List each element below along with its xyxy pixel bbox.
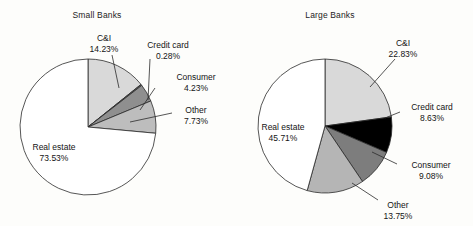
slice-label-name: C&I	[396, 38, 410, 48]
slice-label-large-credit-card: Credit card8.63%	[372, 102, 473, 123]
slice-label-name: Credit card	[411, 102, 453, 112]
slice-label-name: Real estate	[33, 142, 76, 152]
slice-label-value: 0.28%	[108, 51, 228, 62]
slice-label-large-consumer: Consumer9.08%	[371, 160, 473, 181]
slice-label-value: 22.83%	[343, 49, 463, 60]
slice-label-large-c-i: C&I22.83%	[343, 38, 463, 59]
panel-title-large: Large Banks	[270, 10, 390, 20]
slice-label-value: 13.75%	[338, 211, 458, 222]
slice-label-large-real-estate: Real estate45.71%	[223, 122, 343, 143]
slice-label-small-real-estate: Real estate73.53%	[0, 142, 114, 163]
slice-label-name: Credit card	[147, 40, 189, 50]
slice-label-large-other: Other13.75%	[338, 200, 458, 221]
slice-label-value: 4.23%	[136, 83, 256, 94]
panel-title-small: Small Banks	[37, 10, 157, 20]
leader-line-other	[352, 183, 378, 200]
slice-label-name: Consumer	[176, 72, 215, 82]
slice-label-small-credit-card: Credit card0.28%	[108, 40, 228, 61]
slice-label-value: 9.08%	[371, 171, 473, 182]
slice-label-name: Consumer	[411, 160, 450, 170]
slice-label-name: Real estate	[262, 122, 305, 132]
pie-chart-figure: C&I14.23%Credit card0.28%Consumer4.23%Ot…	[0, 0, 473, 226]
slice-label-small-consumer: Consumer4.23%	[136, 72, 256, 93]
slice-label-value: 73.53%	[0, 153, 114, 164]
slice-label-value: 8.63%	[372, 113, 473, 124]
slice-label-value: 45.71%	[223, 133, 343, 144]
slice-label-name: Other	[387, 200, 408, 210]
slice-label-name: Other	[185, 105, 206, 115]
leader-line-c-i	[370, 59, 395, 87]
